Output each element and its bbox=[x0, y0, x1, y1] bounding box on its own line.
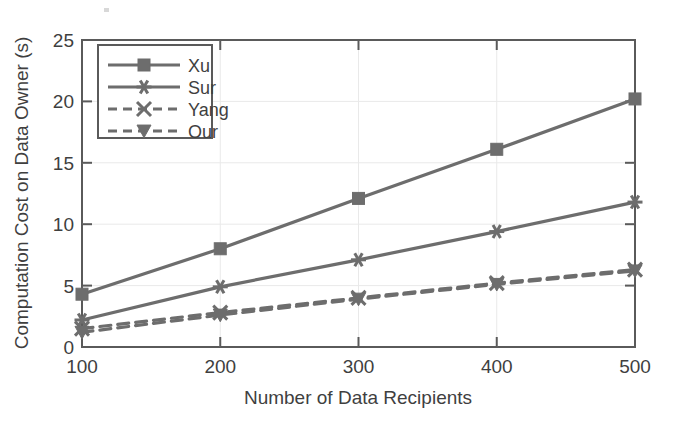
x-tick-label-400: 400 bbox=[481, 356, 513, 377]
x-tick-label-300: 300 bbox=[343, 356, 375, 377]
line-chart-canvas: 0 5 10 15 20 25 100 200 300 400 500 Numb… bbox=[0, 0, 681, 425]
square-marker bbox=[214, 243, 226, 255]
y-tick-label-25: 25 bbox=[53, 30, 74, 51]
scan-artifact bbox=[104, 8, 109, 12]
legend-label-sur: Sur bbox=[188, 78, 216, 98]
square-marker bbox=[491, 143, 503, 155]
y-axis-title: Computation Cost on Data Owner (s) bbox=[11, 37, 32, 350]
x-axis-title: Number of Data Recipients bbox=[244, 387, 472, 408]
square-marker bbox=[629, 93, 641, 105]
square-marker bbox=[76, 288, 88, 300]
x-tick-label-100: 100 bbox=[66, 356, 98, 377]
legend-label-xu: Xu bbox=[188, 56, 210, 76]
square-marker bbox=[353, 192, 365, 204]
y-tick-label-5: 5 bbox=[63, 276, 74, 297]
x-tick-label-500: 500 bbox=[619, 356, 651, 377]
y-tick-label-15: 15 bbox=[53, 153, 74, 174]
y-tick-label-10: 10 bbox=[53, 214, 74, 235]
y-tick-label-20: 20 bbox=[53, 91, 74, 112]
square-marker bbox=[138, 59, 150, 71]
legend-label-yang: Yang bbox=[188, 100, 229, 120]
chart-legend[interactable]: XuSurYangOur bbox=[98, 45, 229, 142]
chart-figure: 0 5 10 15 20 25 100 200 300 400 500 Numb… bbox=[0, 0, 681, 425]
y-tick-label-0: 0 bbox=[63, 337, 74, 358]
legend-label-our: Our bbox=[188, 122, 218, 142]
x-tick-label-200: 200 bbox=[204, 356, 236, 377]
